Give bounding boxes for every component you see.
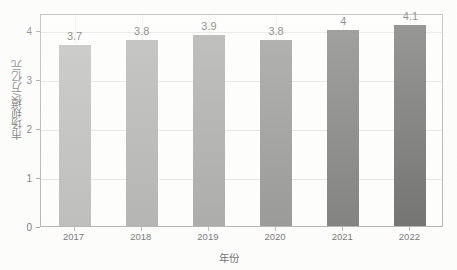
bar-2020 [260,40,292,226]
y-axis-ticks: 01234 [0,14,40,227]
bar-2019 [193,35,225,226]
y-tick-label: 3 [26,75,32,86]
x-tick-mark [141,227,142,231]
plot-area: 3.73.83.93.844.1 [40,14,443,227]
x-tick-mark [342,227,343,231]
bar-2021 [327,30,359,226]
x-axis-ticks: 201720182019202020212022 [40,227,443,247]
bar-value-label: 3.8 [268,25,283,37]
y-tick-label: 1 [26,173,32,184]
bar-value-label: 4 [340,15,346,27]
gridline-y [41,81,442,82]
y-tick-label: 2 [26,124,32,135]
x-tick-label: 2019 [197,231,218,242]
x-tick-mark [275,227,276,231]
gridline-y [41,130,442,131]
gridline-y [41,32,442,33]
x-tick-mark [208,227,209,231]
x-tick-mark [409,227,410,231]
y-tick-label: 0 [26,222,32,233]
x-axis-title: 年份 [0,250,457,265]
x-tick-mark [74,227,75,231]
bar-2018 [126,40,158,226]
bar-value-label: 3.8 [134,25,149,37]
bar-value-label: 4.1 [403,10,418,22]
x-tick-label: 2022 [399,231,420,242]
x-tick-label: 2021 [332,231,353,242]
bar-value-label: 3.9 [201,20,216,32]
bar-2017 [59,45,91,226]
bar-value-label: 3.7 [67,30,82,42]
bar-chart-figure: 市场规模/万亿元 01234 3.73.83.93.844.1 20172018… [0,0,457,270]
bar-2022 [394,25,426,226]
x-tick-label: 2018 [130,231,151,242]
y-tick-label: 4 [26,26,32,37]
gridline-y [41,179,442,180]
x-tick-label: 2020 [265,231,286,242]
x-tick-label: 2017 [63,231,84,242]
